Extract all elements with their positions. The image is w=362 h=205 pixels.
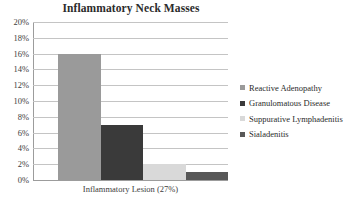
bar <box>58 54 101 180</box>
legend-item: Reactive Adenopathy <box>240 80 362 96</box>
y-axis-tick-label: 12% <box>13 80 33 90</box>
y-axis-tick-label: 4% <box>18 143 33 153</box>
plot-area: 20%18%16%14%12%10%8%6%4%2%0% <box>33 22 228 180</box>
legend-label: Suppurative Lymphadenitis <box>249 115 343 124</box>
legend-label: Reactive Adenopathy <box>249 84 322 93</box>
legend-item: Granulomatous Disease <box>240 96 362 112</box>
gridline <box>33 180 228 181</box>
legend-marker-icon <box>240 85 245 90</box>
legend-label: Granulomatous Disease <box>249 99 330 108</box>
bar <box>186 172 229 180</box>
legend-marker-icon <box>240 132 245 137</box>
y-axis-tick-label: 0% <box>18 175 33 185</box>
chart-title: Inflammatory Neck Masses <box>33 2 229 14</box>
legend-label: Sialadenitis <box>249 130 289 139</box>
y-axis-tick-label: 20% <box>13 17 33 27</box>
y-axis-tick-label: 18% <box>13 33 33 43</box>
y-axis-tick-label: 6% <box>18 128 33 138</box>
legend-marker-icon <box>240 116 245 121</box>
y-axis-tick-label: 2% <box>18 159 33 169</box>
y-axis-tick-label: 10% <box>13 96 33 106</box>
chart-legend: Reactive AdenopathyGranulomatous Disease… <box>240 80 362 142</box>
legend-item: Sialadenitis <box>240 127 362 143</box>
x-axis-label: Inflammatory Lesion (27%) <box>33 184 228 194</box>
legend-item: Suppurative Lymphadenitis <box>240 111 362 127</box>
y-axis-tick-label: 14% <box>13 64 33 74</box>
bar-series-group <box>33 22 228 180</box>
bar <box>143 164 186 180</box>
y-axis-tick-label: 16% <box>13 49 33 59</box>
bar <box>101 125 144 180</box>
y-axis-tick-label: 8% <box>18 112 33 122</box>
chart-container: Inflammatory Neck Masses 20%18%16%14%12%… <box>0 0 362 205</box>
legend-marker-icon <box>240 101 245 106</box>
